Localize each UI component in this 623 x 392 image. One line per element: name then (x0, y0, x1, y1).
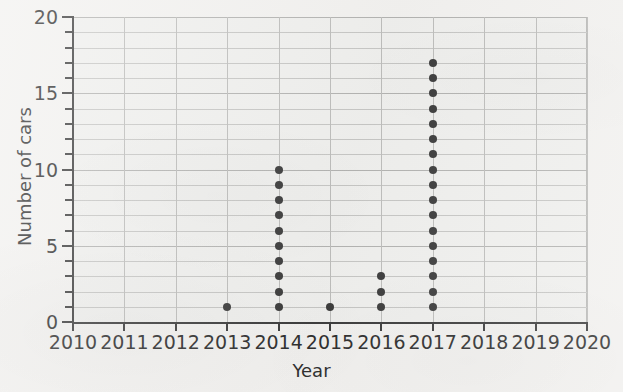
x-tick-label-2014: 2014 (254, 333, 304, 352)
data-point (429, 120, 437, 128)
data-point (275, 242, 283, 250)
y-tick-8 (65, 199, 73, 201)
x-axis-title: Year (0, 360, 623, 381)
data-point (429, 211, 437, 219)
data-point (429, 257, 437, 265)
x-tick-2011 (123, 323, 125, 331)
data-point (429, 74, 437, 82)
y-tick-label-0: 0 (46, 313, 58, 332)
data-point (326, 303, 334, 311)
gridline-x-2011 (124, 17, 125, 322)
y-tick-7 (65, 214, 73, 216)
data-point (429, 105, 437, 113)
x-tick-label-2019: 2019 (511, 333, 561, 352)
data-point (429, 196, 437, 204)
x-tick-2012 (175, 323, 177, 331)
data-point (429, 150, 437, 158)
data-point (429, 181, 437, 189)
y-tick-14 (65, 108, 73, 110)
x-tick-label-2013: 2013 (202, 333, 252, 352)
x-tick-2015 (329, 323, 331, 331)
data-point (429, 59, 437, 67)
x-tick-2013 (226, 323, 228, 331)
y-tick-18 (65, 47, 73, 49)
x-tick-label-2015: 2015 (305, 333, 355, 352)
data-point (429, 89, 437, 97)
data-point (377, 288, 385, 296)
data-point (377, 303, 385, 311)
data-point (275, 181, 283, 189)
x-tick-label-2016: 2016 (356, 333, 406, 352)
x-tick-2018 (483, 323, 485, 331)
data-point (275, 196, 283, 204)
data-point (275, 303, 283, 311)
data-point (429, 272, 437, 280)
data-point (275, 211, 283, 219)
y-tick-12 (65, 138, 73, 140)
y-tick-label-10: 10 (34, 161, 58, 180)
y-tick-6 (65, 230, 73, 232)
data-point (223, 303, 231, 311)
gridline-x-2015 (330, 17, 331, 322)
y-tick-11 (65, 153, 73, 155)
data-point (429, 242, 437, 250)
gridline-x-2020 (587, 17, 588, 322)
x-tick-label-2017: 2017 (408, 333, 458, 352)
x-tick-label-2018: 2018 (459, 333, 509, 352)
y-tick-17 (65, 62, 73, 64)
data-point (275, 166, 283, 174)
y-tick-15 (62, 92, 73, 94)
x-tick-label-2012: 2012 (151, 333, 201, 352)
x-tick-label-2020: 2020 (562, 333, 612, 352)
dot-plot-chart: 05101520 2010201120122013201420152016201… (0, 0, 623, 392)
data-point (429, 135, 437, 143)
y-tick-16 (65, 77, 73, 79)
x-tick-2010 (72, 323, 74, 331)
data-point (429, 303, 437, 311)
gridline-x-2013 (227, 17, 228, 322)
x-tick-label-2011: 2011 (99, 333, 149, 352)
plot-area (73, 17, 587, 322)
x-tick-2016 (380, 323, 382, 331)
data-point (429, 288, 437, 296)
x-tick-2020 (586, 323, 588, 331)
data-point (377, 272, 385, 280)
data-point (429, 227, 437, 235)
gridline-x-2018 (484, 17, 485, 322)
x-tick-2017 (432, 323, 434, 331)
y-tick-label-5: 5 (46, 237, 58, 256)
x-tick-2014 (278, 323, 280, 331)
y-tick-3 (65, 275, 73, 277)
y-axis-title: Number of cars (14, 87, 35, 267)
y-tick-20 (62, 16, 73, 18)
y-tick-label-15: 15 (34, 84, 58, 103)
y-tick-13 (65, 123, 73, 125)
gridline-x-2019 (536, 17, 537, 322)
y-tick-9 (65, 184, 73, 186)
y-tick-5 (62, 245, 73, 247)
x-tick-label-2010: 2010 (48, 333, 98, 352)
data-point (275, 227, 283, 235)
data-point (275, 272, 283, 280)
gridline-x-2012 (176, 17, 177, 322)
data-point (429, 166, 437, 174)
x-tick-2019 (535, 323, 537, 331)
data-point (275, 257, 283, 265)
y-tick-label-20: 20 (34, 8, 58, 27)
y-tick-2 (65, 291, 73, 293)
data-point (275, 288, 283, 296)
y-tick-1 (65, 306, 73, 308)
y-tick-19 (65, 31, 73, 33)
y-tick-4 (65, 260, 73, 262)
y-tick-10 (62, 169, 73, 171)
